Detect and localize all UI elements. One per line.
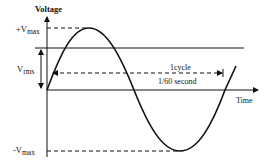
sine-wave-diagram: Voltage Time +Vmax Vrms -Vmax 1cycle 1/6… (0, 0, 274, 164)
vmax-neg-label: -Vmax (13, 145, 35, 157)
vmax-pos-label: +Vmax (16, 24, 40, 36)
vrms-label: Vrms (17, 64, 34, 76)
cycle-label: 1cycle (170, 63, 191, 72)
time-axis-label: Time (236, 96, 253, 105)
voltage-axis-label: Voltage (35, 4, 62, 14)
cycle-duration-label: 1/60 second (158, 77, 196, 86)
